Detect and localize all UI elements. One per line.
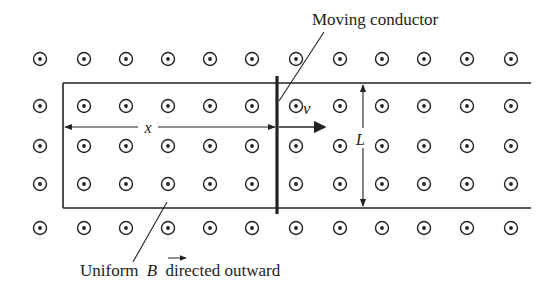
conductor-leader-line: [279, 32, 324, 101]
field-dot: [465, 57, 469, 61]
field-dot: [465, 226, 469, 230]
field-dot: [509, 144, 513, 148]
field-dot: [509, 57, 513, 61]
field-dot: [166, 182, 170, 186]
field-dot: [338, 144, 342, 148]
field-dot: [208, 57, 212, 61]
field-dot: [380, 144, 384, 148]
field-dot: [422, 144, 426, 148]
field-dot: [38, 182, 42, 186]
field-dot: [338, 226, 342, 230]
L-label: L: [355, 131, 365, 148]
velocity-label: v: [303, 99, 311, 118]
field-dot: [250, 104, 254, 108]
field-dot: [380, 226, 384, 230]
field-dot: [250, 57, 254, 61]
field-dot: [166, 226, 170, 230]
field-leader-line: [133, 202, 167, 262]
field-dot: [465, 104, 469, 108]
moving-conductor-label: Moving conductor: [312, 10, 438, 29]
field-dot: [208, 144, 212, 148]
field-dot: [380, 104, 384, 108]
field-dot: [294, 144, 298, 148]
field-dot: [82, 226, 86, 230]
field-dot: [250, 144, 254, 148]
field-dot: [82, 57, 86, 61]
field-dot: [509, 226, 513, 230]
field-dot: [124, 144, 128, 148]
field-symbol: B: [147, 261, 158, 280]
field-dot: [124, 57, 128, 61]
field-dot: [509, 104, 513, 108]
field-dot: [380, 57, 384, 61]
field-dot: [338, 182, 342, 186]
field-dot: [250, 226, 254, 230]
field-dot: [82, 104, 86, 108]
field-dot: [338, 57, 342, 61]
field-dot: [124, 182, 128, 186]
field-dot: [422, 104, 426, 108]
field-dot: [380, 182, 384, 186]
field-dot: [38, 226, 42, 230]
field-dot: [82, 144, 86, 148]
field-dot: [82, 182, 86, 186]
field-dot: [208, 182, 212, 186]
field-dot: [38, 104, 42, 108]
field-dot: [208, 104, 212, 108]
field-dot: [422, 57, 426, 61]
diagram-canvas: x v L Moving conductor Uniform B directe…: [0, 0, 553, 291]
field-dot: [422, 226, 426, 230]
field-dot: [422, 182, 426, 186]
x-label: x: [143, 119, 151, 136]
field-dot: [509, 182, 513, 186]
field-dot: [294, 57, 298, 61]
field-label: Uniform B directed outward: [80, 261, 281, 280]
field-label-suffix: directed outward: [165, 261, 280, 280]
field-dot: [166, 104, 170, 108]
field-dot: [124, 104, 128, 108]
field-dot: [294, 226, 298, 230]
field-dot: [166, 57, 170, 61]
field-dot: [294, 104, 298, 108]
field-dot: [124, 226, 128, 230]
field-dot: [465, 182, 469, 186]
field-dot: [465, 144, 469, 148]
field-dot: [38, 57, 42, 61]
field-dot: [38, 144, 42, 148]
field-dot: [250, 182, 254, 186]
field-label-prefix: Uniform: [80, 261, 139, 280]
field-dot: [338, 104, 342, 108]
field-dot: [208, 226, 212, 230]
field-dot: [294, 182, 298, 186]
field-dot: [166, 144, 170, 148]
